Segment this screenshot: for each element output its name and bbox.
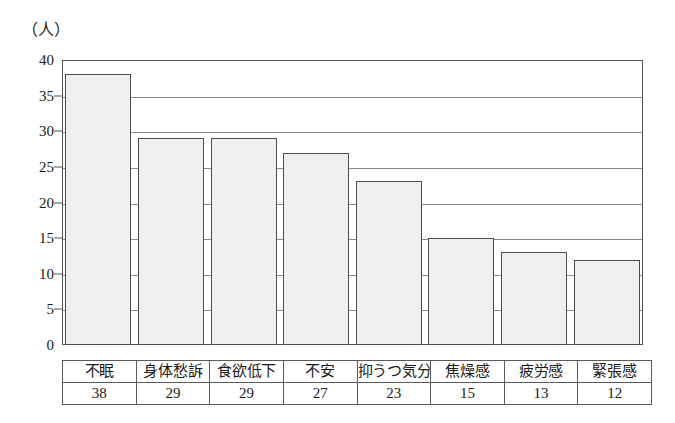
table-cell-label: 不安 [283, 361, 357, 383]
y-axis-unit-label: （人） [22, 22, 70, 38]
y-axis-tick-marks [0, 60, 62, 345]
table-row-labels: 不眠身体愁訴食欲低下不安抑うつ気分焦燥感疲労感緊張感 [63, 361, 652, 383]
gridline [63, 132, 642, 133]
table-cell-value: 13 [504, 383, 578, 405]
table-cell-label: 身体愁訴 [136, 361, 210, 383]
table-cell-value: 38 [63, 383, 137, 405]
table-cell-value: 29 [210, 383, 284, 405]
table-cell-label: 焦燥感 [431, 361, 505, 383]
table-cell-label: 緊張感 [578, 361, 652, 383]
table-row-values: 3829292723151312 [63, 383, 652, 405]
gridline [63, 204, 642, 205]
y-axis-tick-mark [54, 202, 62, 203]
gridline [63, 275, 642, 276]
y-axis-tick-mark [54, 309, 62, 310]
y-axis-tick-mark [54, 238, 62, 239]
table-cell-value: 27 [283, 383, 357, 405]
table-cell-value: 12 [578, 383, 652, 405]
bar-chart-figure: （人） 4035302520151050 不眠身体愁訴食欲低下不安抑うつ気分焦燥… [0, 0, 675, 423]
gridline [63, 310, 642, 311]
gridline [63, 239, 642, 240]
table-cell-label: 食欲低下 [210, 361, 284, 383]
y-axis-tick-mark [54, 95, 62, 96]
table-cell-value: 15 [431, 383, 505, 405]
gridline [63, 97, 642, 98]
table-cell-label: 不眠 [63, 361, 137, 383]
data-table: 不眠身体愁訴食欲低下不安抑うつ気分焦燥感疲労感緊張感 3829292723151… [62, 360, 652, 405]
table-cell-value: 23 [357, 383, 431, 405]
y-axis-tick-mark [54, 166, 62, 167]
table-cell-label: 疲労感 [504, 361, 578, 383]
plot-area [62, 60, 643, 345]
gridline [63, 168, 642, 169]
table-cell-value: 29 [136, 383, 210, 405]
y-axis-tick-mark [54, 273, 62, 274]
table-cell-label: 抑うつ気分 [357, 361, 431, 383]
y-axis-tick-mark [54, 131, 62, 132]
